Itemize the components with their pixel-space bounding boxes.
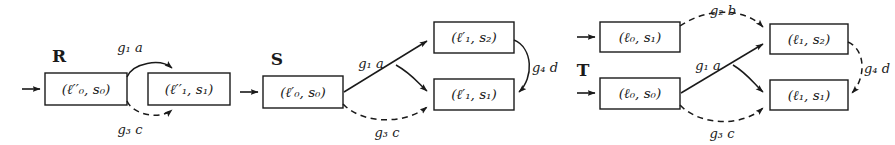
transition-s0-s2-g1a[interactable] (344, 41, 427, 92)
automata-figure: R (ℓ′′₀, s₀) (ℓ′′₁, s₁) g₁ a g₃ c S (ℓ′₀… (0, 0, 895, 145)
transition-t00-t11-g1a-branch[interactable] (733, 65, 763, 92)
transition-s2-s1-g4d[interactable] (514, 40, 529, 92)
transition-t00-t11-g3c[interactable] (680, 105, 763, 122)
transition-s0-s1-g1a-branch[interactable] (396, 65, 427, 91)
state-label-r1: (ℓ′′₁, s₁) (165, 81, 214, 97)
transition-label-t-g2b: g₂ b (710, 3, 736, 18)
automata-svg: R (ℓ′′₀, s₀) (ℓ′′₁, s₁) g₁ a g₃ c S (ℓ′₀… (0, 0, 895, 145)
state-label-s2: (ℓ′₁, s₂) (451, 29, 497, 45)
state-box-t00[interactable]: (ℓ₀, s₀) (600, 78, 680, 109)
automaton-name-T: T (577, 60, 590, 80)
state-box-s0[interactable]: (ℓ′₀, s₀) (263, 76, 343, 108)
transition-label-r-g1a: g₁ a (117, 40, 142, 55)
state-label-t01: (ℓ₀, s₁) (619, 29, 662, 45)
state-label-t12: (ℓ₁, s₂) (788, 31, 831, 47)
transition-s0-s1-g3c[interactable] (343, 104, 427, 120)
state-label-s1: (ℓ′₁, s₁) (451, 86, 497, 102)
state-label-t00: (ℓ₀, s₀) (619, 85, 662, 101)
automaton-T: T (ℓ₀, s₁) (ℓ₀, s₀) (ℓ₁, s₂) (ℓ₁, s₁) g₂… (577, 3, 890, 141)
state-box-s1[interactable]: (ℓ′₁, s₁) (434, 79, 514, 110)
transition-label-t-g1a: g₁ a (695, 58, 720, 73)
transition-t12-t11-g4d[interactable] (848, 42, 862, 93)
state-box-t12[interactable]: (ℓ₁, s₂) (770, 24, 848, 54)
state-box-t01[interactable]: (ℓ₀, s₁) (600, 22, 680, 52)
transition-label-r-g3c: g₃ c (118, 122, 144, 137)
state-label-t11: (ℓ₁, s₁) (788, 87, 831, 103)
automaton-S: S (ℓ′₀, s₀) (ℓ′₁, s₂) (ℓ′₁, s₁) g₁ a g₄ … (240, 22, 558, 140)
transition-label-s-g3c: g₃ c (375, 125, 401, 140)
state-box-r1[interactable]: (ℓ′′₁, s₁) (148, 73, 230, 105)
transition-label-s-g4d: g₄ d (532, 60, 558, 75)
transition-t00-t12-g1a[interactable] (681, 44, 763, 93)
state-box-t11[interactable]: (ℓ₁, s₁) (770, 80, 848, 110)
transition-label-t-g4d: g₄ d (864, 61, 890, 76)
state-box-s2[interactable]: (ℓ′₁, s₂) (434, 22, 514, 53)
automaton-name-S: S (271, 49, 283, 69)
state-label-r0: (ℓ′′₀, s₀) (62, 81, 111, 97)
transition-label-s-g1a: g₁ a (358, 56, 383, 71)
automaton-R: R (ℓ′′₀, s₀) (ℓ′′₁, s₁) g₁ a g₃ c (22, 40, 230, 137)
state-box-r0[interactable]: (ℓ′′₀, s₀) (45, 73, 127, 105)
transition-label-t-g3c: g₃ c (710, 126, 736, 141)
automaton-name-R: R (52, 46, 67, 66)
state-label-s0: (ℓ′₀, s₀) (280, 84, 326, 100)
